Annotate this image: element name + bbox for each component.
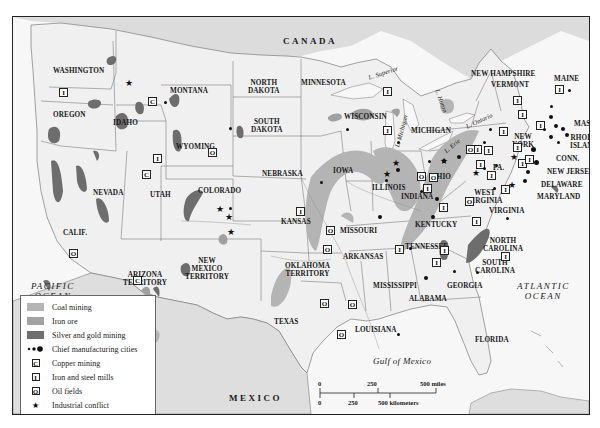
label-maryland: MARYLAND <box>537 193 580 201</box>
map-legend: Coal mining Iron ore Silver and gold min… <box>20 295 156 414</box>
manufacturing-city-dot <box>561 127 565 131</box>
legend-item-cities: Chief manufacturing cities <box>27 343 137 355</box>
manufacturing-city-dot <box>493 187 496 190</box>
label-arizona-territory: ARIZONA TERRITORY <box>123 271 167 287</box>
manufacturing-city-dot <box>346 128 349 131</box>
manufacturing-city-dot <box>568 89 571 92</box>
industrial-conflict-icon: ★ <box>227 228 235 237</box>
label-north-carolina: NORTH CAROLINA <box>483 237 523 253</box>
oil-field-icon: O <box>208 148 217 157</box>
manufacturing-city-dot <box>476 271 479 274</box>
iron-steel-mill-icon: I <box>487 171 496 180</box>
label-atlantic-ocean: ATLANTIC OCEAN <box>517 281 570 301</box>
industrial-conflict-icon: ★ <box>125 79 133 88</box>
label-illinois: ILLINOIS <box>372 184 406 192</box>
iron-steel-mill-icon: I <box>395 245 404 254</box>
manufacturing-city-dot <box>396 168 400 172</box>
industrial-conflict-icon: ★ <box>225 213 233 222</box>
iron-steel-mill-icon: I <box>296 207 305 216</box>
label-north-dakota: NORTH DAKOTA <box>248 79 280 95</box>
manufacturing-city-dot <box>431 215 435 219</box>
manufacturing-city-dot <box>453 270 456 273</box>
label-vermont: VERMONT <box>491 81 529 89</box>
industrial-conflict-icon: ★ <box>472 169 480 178</box>
legend-item-silver-gold: Silver and gold mining <box>27 329 126 341</box>
label-new-jersey: NEW JERSEY <box>547 168 590 176</box>
manufacturing-city-dot <box>397 333 400 336</box>
manufacturing-city-dot <box>229 127 232 130</box>
label-new-hampshire: NEW HAMPSHIRE <box>471 70 535 78</box>
iron-steel-mill-icon: I <box>518 110 527 119</box>
oil-field-icon: O <box>348 300 357 309</box>
label-wisconsin: WISCONSIN <box>344 113 387 121</box>
scale-bar-line <box>318 388 438 398</box>
label-gulf-of-mexico: Gulf of Mexico <box>373 357 431 365</box>
manufacturing-city-dot <box>495 164 498 167</box>
copper-mining-icon: C <box>148 97 157 106</box>
oil-field-icon: O <box>32 387 40 395</box>
iron-steel-mill-icon: I <box>383 87 392 96</box>
industrial-conflict-icon: ★ <box>510 153 518 162</box>
manufacturing-city-dot <box>557 141 560 144</box>
label-montana: MONTANA <box>170 87 208 95</box>
label-oklahoma-territory: OKLAHOMA TERRITORY <box>285 262 330 278</box>
manufacturing-city-dot <box>526 170 530 174</box>
industrial-conflict-icon: ★ <box>27 401 44 410</box>
manufacturing-city-dot <box>164 101 167 104</box>
label-connecticut: CONN. <box>556 155 579 163</box>
label-georgia: GEORGIA <box>447 282 482 290</box>
oil-field-icon: O <box>465 197 474 206</box>
copper-mining-icon: C <box>133 276 142 285</box>
legend-item-iron-steel: I Iron and steel mills <box>27 371 114 383</box>
iron-steel-mill-icon: I <box>484 146 493 155</box>
silver-gold-swatch <box>27 331 44 339</box>
iron-steel-mill-icon: I <box>440 246 449 255</box>
copper-mining-icon: C <box>142 170 151 179</box>
manufacturing-city-dot <box>378 215 382 219</box>
oil-field-icon: O <box>337 330 346 339</box>
label-nevada: NEVADA <box>93 189 123 197</box>
manufacturing-city-dot <box>420 190 423 193</box>
label-alabama: ALABAMA <box>409 295 447 303</box>
label-delaware: DELAWARE <box>541 181 583 189</box>
manufacturing-city-dot <box>489 128 492 131</box>
label-south-dakota: SOUTH DAKOTA <box>251 118 283 134</box>
legend-item-copper: C Copper mining <box>27 357 100 369</box>
industrial-conflict-icon: ★ <box>383 170 391 179</box>
label-iowa: IOWA <box>333 167 353 175</box>
label-arkansas: ARKANSAS <box>343 253 383 261</box>
oil-field-icon: O <box>326 226 335 235</box>
label-texas: TEXAS <box>274 318 298 326</box>
label-mexico: MEXICO <box>229 394 282 402</box>
manufacturing-city-dot <box>543 128 546 131</box>
manufacturing-city-dot <box>385 179 388 182</box>
label-massachusetts: MASS. <box>574 120 590 128</box>
label-oregon: OREGON <box>53 111 86 119</box>
manufacturing-cities-icon <box>27 345 44 353</box>
label-kentucky: KENTUCKY <box>415 221 457 229</box>
manufacturing-city-dot <box>483 167 486 170</box>
manufacturing-city-dot <box>506 217 509 220</box>
iron-steel-mill-icon: I <box>439 203 448 212</box>
manufacturing-city-dot <box>229 207 232 210</box>
manufacturing-city-dot <box>320 181 323 184</box>
legend-item-iron-ore: Iron ore <box>27 315 78 327</box>
manufacturing-city-dot <box>549 135 553 139</box>
label-mississippi: MISSISSIPPI <box>373 282 417 290</box>
label-missouri: MISSOURI <box>340 227 377 235</box>
iron-steel-mill-icon: I <box>513 96 522 105</box>
manufacturing-city-dot <box>409 247 412 250</box>
industrial-conflict-icon: ★ <box>216 205 224 214</box>
legend-item-coal: Coal mining <box>27 301 92 313</box>
iron-steel-mill-icon: I <box>423 184 432 193</box>
oil-field-icon: O <box>320 299 329 308</box>
label-minnesota: MINNESOTA <box>301 79 346 87</box>
iron-steel-mill-icon: I <box>59 88 68 97</box>
manufacturing-city-dot <box>442 159 446 163</box>
label-kansas: KANSAS <box>281 218 311 226</box>
manufacturing-city-dot <box>554 124 558 128</box>
manufacturing-city-dot <box>435 197 439 201</box>
scale-bar: 0 250 500 miles 0 250 500 kilometers <box>318 380 458 410</box>
manufacturing-city-dot <box>483 141 486 144</box>
industrial-conflict-icon: ★ <box>508 181 516 190</box>
